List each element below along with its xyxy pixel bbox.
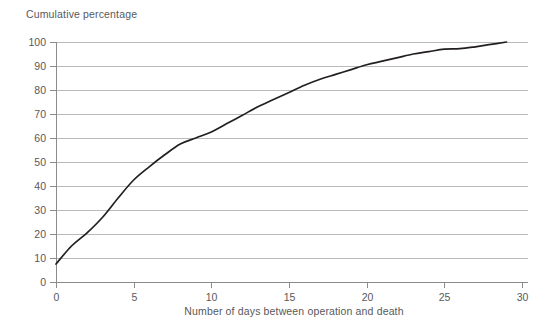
x-tick-label-5: 5 — [132, 291, 138, 303]
y-tick-label-100: 100 — [28, 36, 46, 48]
y-tick-label-60: 60 — [34, 132, 46, 144]
x-tick-labels: 051015202530 — [54, 291, 529, 303]
x-axis-title: Number of days between operation and dea… — [0, 305, 550, 317]
y-tick-label-30: 30 — [34, 204, 46, 216]
gridlines — [56, 43, 528, 283]
x-tick-label-0: 0 — [54, 291, 60, 303]
x-tick-label-10: 10 — [206, 291, 218, 303]
data-series-curve — [56, 42, 506, 264]
y-tick-labels: 0102030405060708090100 — [28, 36, 46, 288]
y-tick-label-20: 20 — [34, 228, 46, 240]
x-tick-label-25: 25 — [439, 291, 451, 303]
x-tick-label-30: 30 — [517, 291, 529, 303]
cumulative-percentage-line-chart: 0102030405060708090100 051015202530 — [0, 0, 550, 328]
x-tick-label-20: 20 — [362, 291, 374, 303]
y-tick-label-0: 0 — [40, 276, 46, 288]
y-tick-label-70: 70 — [34, 108, 46, 120]
y-tick-label-10: 10 — [34, 252, 46, 264]
y-tick-label-40: 40 — [34, 180, 46, 192]
y-tick-label-80: 80 — [34, 84, 46, 96]
y-tick-label-50: 50 — [34, 156, 46, 168]
x-tick-label-15: 15 — [284, 291, 296, 303]
series-line-0 — [56, 42, 506, 264]
chart-figure: Cumulative percentage 010203040506070809… — [0, 0, 550, 328]
y-tick-label-90: 90 — [34, 60, 46, 72]
axis-ticks — [50, 43, 523, 289]
